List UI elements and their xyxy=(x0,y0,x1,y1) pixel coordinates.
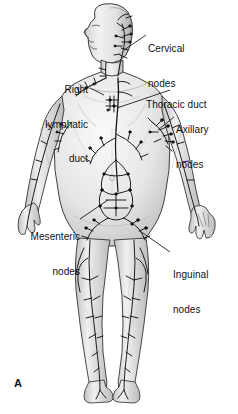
lymphatic-system-figure: Cervical nodes Right lymphatic duct Thor… xyxy=(0,0,238,414)
label-right-lymphatic-duct: Right lymphatic duct xyxy=(8,61,88,176)
label-cervical-line1: Cervical xyxy=(148,43,226,55)
label-inguinal-line2: nodes xyxy=(173,304,237,316)
label-inguinal-line1: Inguinal xyxy=(173,269,237,281)
label-axillary-line1: Axillary xyxy=(176,124,238,136)
label-mesenteric-line2: nodes xyxy=(4,266,80,278)
label-mesenteric-nodes: Mesenteric nodes xyxy=(4,208,80,289)
label-right-lymphatic-line2: lymphatic xyxy=(8,119,88,131)
panel-letter-label: A xyxy=(14,377,22,389)
label-axillary-line2: nodes xyxy=(176,159,238,171)
label-right-lymphatic-line1: Right xyxy=(8,84,88,96)
label-inguinal-nodes: Inguinal nodes xyxy=(173,246,237,327)
label-mesenteric-line1: Mesenteric xyxy=(4,231,80,243)
label-right-lymphatic-line3: duct xyxy=(8,153,88,165)
label-axillary-nodes: Axillary nodes xyxy=(176,101,238,182)
